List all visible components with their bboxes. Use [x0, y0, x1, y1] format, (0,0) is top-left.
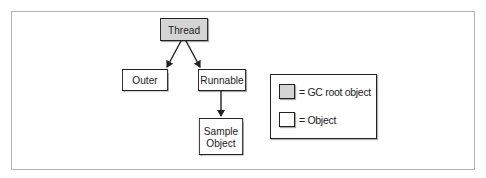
edge-thread-outer [167, 41, 181, 67]
gc-root-swatch-icon [279, 84, 295, 99]
legend-label-gc-root: = GC root object [299, 86, 371, 98]
node-outer-label: Outer [132, 74, 157, 86]
node-outer: Outer [122, 69, 168, 91]
legend-label-object: = Object [299, 114, 336, 126]
legend: = GC root object = Object [270, 74, 377, 139]
node-sample-object-label-1: Sample [204, 125, 238, 137]
node-thread-label: Thread [168, 24, 200, 36]
node-sample-object-label-2: Object [206, 137, 235, 149]
edge-thread-runnable [186, 41, 200, 67]
legend-item-object: = Object [279, 112, 336, 127]
object-swatch-icon [279, 112, 295, 127]
node-thread: Thread [160, 18, 208, 41]
legend-item-gc-root: = GC root object [279, 84, 371, 99]
node-runnable: Runnable [198, 69, 246, 91]
node-runnable-label: Runnable [200, 74, 243, 86]
node-sample-object: Sample Object [199, 118, 243, 155]
